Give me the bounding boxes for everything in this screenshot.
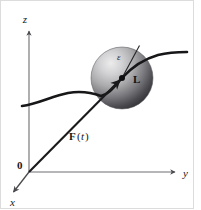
vector-limit-diagram: z y x 0 ε L F ( t ): [0, 0, 201, 210]
origin-label: 0: [17, 159, 23, 171]
vector-f-paren-close: ): [85, 130, 89, 143]
limit-point-label: L: [133, 73, 140, 85]
vector-f-label: F: [69, 130, 76, 142]
figure-container: z y x 0 ε L F ( t ): [0, 0, 201, 210]
z-axis-label: z: [22, 13, 28, 25]
epsilon-label: ε: [117, 52, 121, 62]
y-axis-label: y: [182, 167, 188, 179]
vector-f-label-group: F ( t ): [69, 130, 89, 143]
x-axis-label: x: [9, 196, 15, 208]
limit-point-dot: [119, 75, 125, 81]
